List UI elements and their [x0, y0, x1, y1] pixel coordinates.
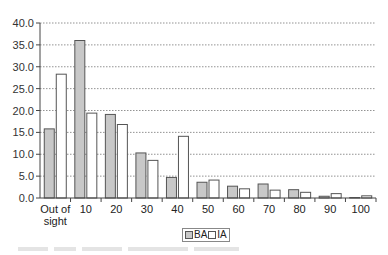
y-tick-label: 40.0: [13, 17, 34, 29]
x-tick-label: 60: [232, 203, 244, 215]
x-tick-label: 10: [80, 203, 92, 215]
x-tick-label: 30: [141, 203, 153, 215]
y-tick-label: 35.0: [13, 39, 34, 51]
faint-caption-blocks: [18, 247, 248, 253]
x-tick-label: Out of: [40, 203, 71, 215]
legend-swatch-ia: [208, 231, 216, 239]
bar-ia: [270, 190, 280, 198]
bar-ia: [301, 192, 311, 198]
x-tick-label: sight: [44, 215, 67, 227]
bar-ia: [178, 136, 188, 198]
bar-ba: [197, 182, 207, 198]
bar-ia: [56, 74, 66, 198]
x-tick-label: 80: [294, 203, 306, 215]
bar-ba: [44, 129, 54, 198]
bar-ia: [209, 180, 219, 198]
x-tick-label: 40: [171, 203, 183, 215]
y-axis: 0.05.010.015.020.025.030.035.040.0: [13, 17, 40, 204]
x-tick-label: 90: [324, 203, 336, 215]
bar-ba: [75, 41, 85, 199]
bar-ia: [331, 194, 341, 198]
bar-ia: [148, 160, 158, 198]
bar-ia: [87, 113, 97, 198]
x-tick-label: 70: [263, 203, 275, 215]
bar-ba: [289, 190, 299, 198]
bar-ba: [258, 184, 268, 198]
bar-ba: [166, 177, 176, 198]
y-tick-label: 25.0: [13, 83, 34, 95]
legend-label-ba: BA: [194, 229, 207, 241]
x-axis: Out ofsight102030405060708090100: [40, 198, 376, 227]
x-tick-label: 20: [110, 203, 122, 215]
y-tick-label: 5.0: [19, 170, 34, 182]
bar-ba: [105, 114, 115, 198]
bar-ia: [240, 189, 250, 198]
y-tick-label: 15.0: [13, 126, 34, 138]
legend-swatch-ba: [185, 231, 193, 239]
bar-ba: [136, 153, 146, 198]
y-tick-label: 30.0: [13, 61, 34, 73]
x-tick-label: 50: [202, 203, 214, 215]
bars: [44, 41, 371, 199]
bar-chart: 0.05.010.015.020.025.030.035.040.0 Out o…: [0, 0, 388, 255]
bar-ba: [228, 186, 238, 198]
legend: BA IA: [182, 228, 230, 242]
legend-label-ia: IA: [217, 229, 226, 241]
bar-ia: [117, 125, 127, 199]
y-tick-label: 10.0: [13, 148, 34, 160]
y-tick-label: 20.0: [13, 105, 34, 117]
x-tick-label: 100: [352, 203, 370, 215]
y-tick-label: 0.0: [19, 192, 34, 204]
